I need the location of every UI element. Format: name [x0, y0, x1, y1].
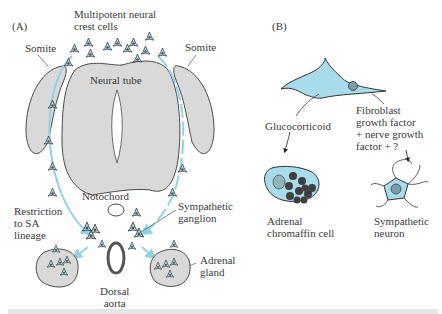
- label-somite-left: Somite: [25, 42, 56, 54]
- label-glucocorticoid: Glucocorticoid: [265, 120, 331, 132]
- label-sympathetic-neuron: Sympathetic neuron: [374, 215, 429, 239]
- chromaffin-nucleus: [273, 175, 285, 189]
- label-notochord: Notochord: [82, 190, 129, 202]
- panel-b-label: (B): [272, 20, 287, 32]
- arrow-to-chromaffin: [285, 132, 290, 151]
- label-sympathetic-ganglion: Sympathetic ganglion: [178, 200, 233, 224]
- leader-somite-left: [38, 55, 48, 66]
- line-to-growth-factors: [372, 94, 384, 104]
- label-restriction: Restriction to SA lineage: [14, 205, 62, 241]
- gland-left: [36, 249, 78, 287]
- label-growth-factors: Fibroblast growth factor + nerve growth …: [356, 104, 423, 152]
- label-somite-right: Somite: [185, 41, 216, 53]
- label-neural-crest: Multipotent neural crest cells: [74, 8, 156, 32]
- label-neural-tube: Neural tube: [90, 74, 142, 86]
- leader-ganglion: [141, 210, 176, 232]
- somite-left: [26, 66, 66, 154]
- label-dorsal-aorta: Dorsal aorta: [100, 285, 129, 309]
- neuron-nucleus: [391, 184, 401, 194]
- pathway-to-left-gland: [76, 247, 88, 256]
- dorsal-aorta: [108, 243, 124, 273]
- pathway-to-right-gland: [142, 247, 152, 256]
- caption-cutoff: [8, 309, 438, 314]
- panel-a-label: (A): [12, 20, 27, 32]
- progenitor-cell: [281, 58, 386, 98]
- progenitor-nucleus: [349, 82, 358, 91]
- label-chromaffin-cell: Adrenal chromaffin cell: [267, 215, 334, 239]
- notochord: [108, 204, 124, 216]
- label-adrenal-gland: Adrenal gland: [200, 254, 235, 278]
- leader-somite-right: [188, 55, 196, 66]
